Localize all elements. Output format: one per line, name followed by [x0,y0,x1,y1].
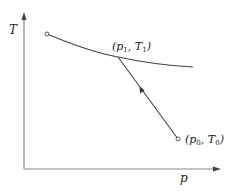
curve-start-point-icon [45,32,49,36]
state0-point-icon [176,137,180,141]
y-axis [22,12,27,169]
x-axis-label: p [180,171,188,185]
y-axis-arrowhead-icon [22,12,27,20]
state1-label: (p1, T1) [112,40,151,54]
x-axis [24,167,221,172]
y-axis-label: T [9,23,18,37]
p-t-diagram: T p (p1, T1) (p0, T0) [0,0,237,191]
state0-label: (p0, T0) [185,133,224,147]
x-axis-arrowhead-icon [213,167,221,172]
process-line [118,57,178,139]
